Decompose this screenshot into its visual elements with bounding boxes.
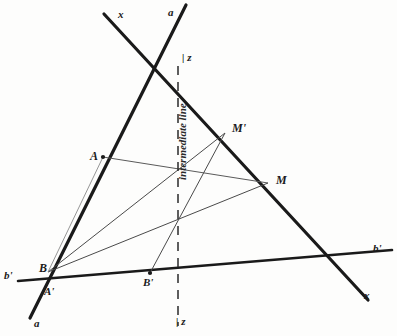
label-M: M bbox=[276, 174, 287, 186]
label-b-prime-right: b' bbox=[373, 243, 382, 254]
point-marker-group bbox=[101, 155, 152, 275]
label-x-top: x bbox=[118, 9, 124, 20]
thick-line-group bbox=[18, 5, 392, 318]
diagram-canvas bbox=[0, 0, 397, 336]
line-x bbox=[104, 14, 368, 300]
z-text-bottom: z bbox=[181, 315, 185, 327]
point-marker-A bbox=[101, 155, 105, 159]
label-M-prime: M' bbox=[232, 122, 246, 134]
point-marker-B-prime bbox=[148, 271, 152, 275]
label-A: A bbox=[90, 150, 98, 162]
z-text-top: z bbox=[187, 51, 191, 63]
segment-B-A bbox=[48, 157, 103, 272]
z-tick-top: | bbox=[182, 51, 184, 63]
label-B-prime: B' bbox=[143, 277, 153, 288]
label-intermediate-line: intermediate line bbox=[176, 103, 188, 180]
line-a bbox=[30, 5, 186, 318]
label-z-bottom: | z bbox=[176, 316, 185, 327]
label-z-top: | z bbox=[182, 52, 191, 63]
label-a-bottom: a bbox=[34, 318, 40, 329]
segment-B-M-prime bbox=[48, 133, 225, 272]
label-B: B bbox=[39, 262, 47, 274]
label-a-top: a bbox=[168, 7, 174, 18]
geometric-diagram: x a | z intermediate line M' M A b' b' B… bbox=[0, 0, 397, 336]
label-b-prime-left: b' bbox=[4, 270, 13, 281]
z-tick-bottom: | bbox=[176, 315, 178, 327]
label-A-prime: A' bbox=[44, 286, 54, 297]
label-x-bottom: x bbox=[364, 290, 370, 301]
